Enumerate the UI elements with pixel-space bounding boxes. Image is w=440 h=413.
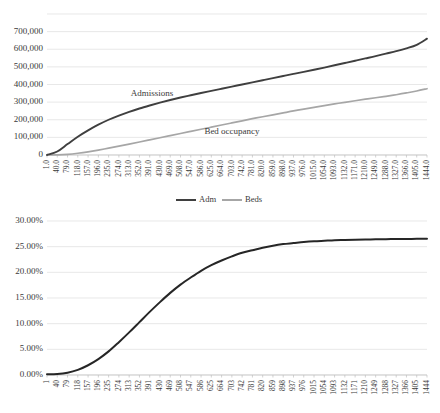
annotation-admissions: Admissions	[131, 88, 174, 98]
x-tick-label: 1288.0	[381, 160, 390, 181]
y-tick-label: 30.00%	[15, 215, 43, 225]
y-tick-label: 0	[39, 149, 44, 159]
x-tick-label: 1054.0	[319, 160, 328, 181]
x-tick-label: 1405.0	[411, 160, 420, 181]
x-tick-label: 508.0	[175, 160, 184, 177]
top-y-tick-labels: 0100,000200,000300,000400,000500,000600,…	[14, 26, 44, 159]
x-tick-label: 274.0	[114, 160, 123, 177]
x-tick-label: 1093.0	[329, 160, 338, 181]
x-tick-label: 859	[268, 380, 277, 391]
x-tick-label: 1.0	[42, 160, 51, 170]
y-tick-label: 400,000	[14, 79, 44, 89]
x-tick-label: 391	[144, 380, 153, 391]
x-tick-label: 586.0	[196, 160, 205, 177]
x-tick-label: 118.0	[73, 160, 82, 177]
x-tick-label: 1054	[319, 380, 328, 395]
x-tick-label: 781	[247, 380, 256, 391]
x-tick-label: 586	[196, 380, 205, 391]
x-tick-label: 1249	[370, 380, 379, 395]
x-tick-label: 313.0	[124, 160, 133, 177]
x-tick-label: 1444.0	[422, 160, 431, 181]
annotation-bed-occupancy: Bed occupancy	[204, 126, 260, 136]
x-tick-label: 1171.0	[350, 160, 359, 180]
y-tick-label: 15.00%	[15, 292, 43, 302]
x-tick-label: 664	[216, 380, 225, 391]
legend-label-adm: Adm	[199, 194, 217, 204]
x-tick-label: 703	[227, 380, 236, 391]
y-tick-label: 20.00%	[15, 266, 43, 276]
x-tick-label: 352	[134, 380, 143, 391]
x-tick-label: 1366	[401, 380, 410, 395]
x-tick-label: 391.0	[144, 160, 153, 177]
x-tick-label: 664.0	[216, 160, 225, 177]
x-tick-label: 469.0	[165, 160, 174, 177]
x-tick-label: 235	[103, 380, 112, 391]
x-tick-label: 742.0	[237, 160, 246, 177]
bottom-y-tick-labels: 0.00%5.00%10.00%15.00%20.00%25.00%30.00%	[15, 215, 43, 379]
chart-bottom-svg: 0.00%5.00%10.00%15.00%20.00%25.00%30.00%…	[0, 205, 440, 413]
x-tick-label: 1132.0	[340, 160, 349, 180]
chart-percentage: 0.00%5.00%10.00%15.00%20.00%25.00%30.00%…	[0, 205, 440, 413]
x-tick-label: 547	[185, 380, 194, 391]
x-tick-label: 703.0	[227, 160, 236, 177]
x-tick-label: 274	[114, 380, 123, 391]
x-tick-label: 1015.0	[309, 160, 318, 181]
x-tick-label: 118	[73, 380, 82, 391]
x-tick-label: 235.0	[103, 160, 112, 177]
x-tick-label: 157.0	[83, 160, 92, 177]
x-tick-label: 157	[83, 380, 92, 391]
x-tick-label: 469	[165, 380, 174, 391]
legend-label-beds: Beds	[245, 194, 263, 204]
y-tick-label: 10.00%	[15, 318, 43, 328]
x-tick-label: 820.0	[257, 160, 266, 177]
x-tick-label: 976	[298, 380, 307, 391]
chart-top-svg: 0100,000200,000300,000400,000500,000600,…	[0, 0, 440, 210]
y-tick-label: 500,000	[14, 61, 44, 71]
x-tick-label: 820	[257, 380, 266, 391]
x-tick-label: 1	[42, 380, 51, 384]
x-tick-label: 898.0	[278, 160, 287, 177]
x-tick-label: 430	[155, 380, 164, 391]
y-tick-label: 200,000	[14, 114, 44, 124]
x-tick-label: 1249.0	[370, 160, 379, 181]
x-tick-label: 1093	[329, 380, 338, 395]
y-tick-label: 700,000	[14, 26, 44, 36]
x-tick-label: 1288	[381, 380, 390, 395]
x-tick-label: 352.0	[134, 160, 143, 177]
top-x-tick-labels: 1.040.079.0118.0157.0196.0235.0274.0313.…	[42, 160, 431, 181]
figure-two-panel-line-charts: 0100,000200,000300,000400,000500,000600,…	[0, 0, 440, 413]
x-tick-label: 508	[175, 380, 184, 391]
x-tick-label: 1132	[340, 380, 349, 395]
x-tick-label: 1210	[360, 380, 369, 395]
bottom-plot-lines	[47, 239, 427, 374]
x-tick-label: 742	[237, 380, 246, 391]
x-tick-label: 937.0	[288, 160, 297, 177]
x-tick-label: 625	[206, 380, 215, 391]
x-tick-label: 1366.0	[401, 160, 410, 181]
y-tick-label: 0.00%	[20, 369, 44, 379]
y-tick-label: 25.00%	[15, 241, 43, 251]
chart-admissions-beds: 0100,000200,000300,000400,000500,000600,…	[0, 0, 440, 210]
x-tick-label: 1327	[391, 380, 400, 395]
series-line-percent	[47, 239, 427, 374]
y-tick-label: 600,000	[14, 43, 44, 53]
x-tick-label: 937	[288, 380, 297, 391]
x-tick-label: 1327.0	[391, 160, 400, 181]
x-tick-label: 976.0	[298, 160, 307, 177]
x-tick-label: 859.0	[268, 160, 277, 177]
x-tick-label: 1405	[411, 380, 420, 395]
x-tick-label: 781.0	[247, 160, 256, 177]
x-tick-label: 1210.0	[360, 160, 369, 181]
x-tick-label: 196.0	[93, 160, 102, 177]
x-tick-label: 1444	[422, 380, 431, 395]
y-tick-label: 300,000	[14, 96, 44, 106]
y-tick-label: 5.00%	[20, 343, 44, 353]
x-tick-label: 40.0	[52, 160, 61, 173]
bottom-x-tick-labels: 1407911815719623527431335239143046950854…	[42, 380, 431, 395]
top-legend: Adm Beds	[176, 194, 263, 204]
x-tick-label: 79	[62, 380, 71, 388]
x-tick-label: 547.0	[185, 160, 194, 177]
x-tick-label: 1015	[309, 380, 318, 395]
y-tick-label: 100,000	[14, 131, 44, 141]
x-tick-label: 1171	[350, 380, 359, 395]
